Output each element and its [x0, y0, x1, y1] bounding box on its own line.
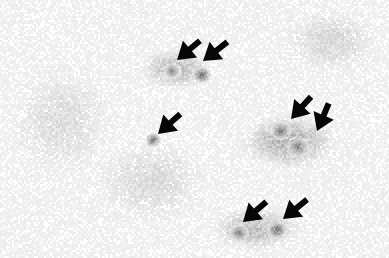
micrograph-image	[0, 0, 389, 258]
micrograph-figure	[0, 0, 389, 258]
